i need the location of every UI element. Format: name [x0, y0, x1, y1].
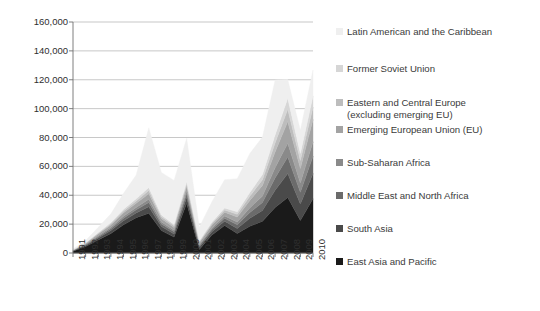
x-axis-tick-labels: 1991199219931994199519961997199819992000… [0, 0, 330, 311]
legend-swatch-icon [336, 65, 343, 72]
x-axis-tick-label: 1995 [128, 239, 138, 260]
x-axis-tick-label: 2002 [216, 239, 226, 260]
stacked-area-chart: 160,000140,000120,000100,00080,00060,000… [0, 0, 540, 311]
x-axis-tick-label: 2000 [191, 239, 201, 260]
legend-item-label: Emerging European Union (EU) [347, 124, 482, 136]
x-axis-tick-label: 2009 [304, 239, 314, 260]
legend-item[interactable]: Former Soviet Union [336, 63, 540, 75]
legend-item-label: Eastern and Central Europe (excluding em… [347, 97, 466, 120]
legend-item-label: East Asia and Pacific [347, 256, 437, 268]
x-axis-tick-label: 2001 [203, 239, 213, 260]
legend-swatch-icon [336, 159, 343, 166]
x-axis-tick-label: 1994 [115, 239, 125, 260]
legend-swatch-icon [336, 225, 343, 232]
legend-item[interactable]: Latin American and the Caribbean [336, 26, 540, 38]
legend-item-label: Middle East and North Africa [347, 190, 469, 202]
legend-swatch-icon [336, 99, 343, 106]
legend-swatch-icon [336, 28, 343, 35]
x-axis-tick-label: 1991 [77, 239, 87, 260]
x-axis-tick-label: 2003 [229, 239, 239, 260]
x-axis-tick-label: 1992 [90, 239, 100, 260]
x-axis-tick-label: 2004 [241, 239, 251, 260]
legend-item[interactable]: East Asia and Pacific [336, 256, 540, 268]
x-axis-tick-label: 1993 [102, 239, 112, 260]
legend-item[interactable]: Eastern and Central Europe (excluding em… [336, 97, 540, 120]
legend-item[interactable]: Middle East and North Africa [336, 190, 540, 202]
x-axis-tick-label: 2005 [254, 239, 264, 260]
legend-item-label: Sub-Saharan Africa [347, 157, 430, 169]
legend-item[interactable]: South Asia [336, 223, 540, 235]
legend-swatch-icon [336, 258, 343, 265]
x-axis-tick-label: 1997 [153, 239, 163, 260]
legend-swatch-icon [336, 192, 343, 199]
x-axis-tick-label: 2008 [292, 239, 302, 260]
plot-area: 160,000140,000120,000100,00080,00060,000… [0, 0, 330, 311]
legend-swatch-icon [336, 126, 343, 133]
legend-item-label: Former Soviet Union [347, 63, 435, 75]
legend-item-label: Latin American and the Caribbean [347, 26, 492, 38]
legend-item[interactable]: Emerging European Union (EU) [336, 124, 540, 136]
legend-item[interactable]: Sub-Saharan Africa [336, 157, 540, 169]
x-axis-tick-label: 2010 [317, 239, 327, 260]
legend-item-label: South Asia [347, 223, 393, 235]
x-axis-tick-label: 1996 [140, 239, 150, 260]
x-axis-tick-label: 1999 [178, 239, 188, 260]
x-axis-tick-label: 1998 [165, 239, 175, 260]
chart-legend: Latin American and the CaribbeanFormer S… [336, 0, 540, 311]
x-axis-tick-label: 2007 [279, 239, 289, 260]
x-axis-tick-label: 2006 [266, 239, 276, 260]
